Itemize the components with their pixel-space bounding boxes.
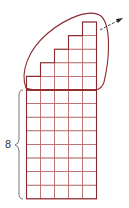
curly-brace (15, 90, 23, 199)
staircase-grid-diagram (0, 0, 129, 208)
enclosing-loop (24, 13, 108, 90)
base-grid (27, 90, 97, 199)
staircase (27, 22, 97, 90)
brace-label: 8 (5, 138, 11, 150)
